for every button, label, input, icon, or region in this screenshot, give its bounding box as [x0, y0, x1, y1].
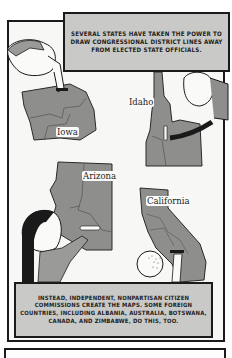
state-label-arizona: Arizona: [82, 171, 117, 181]
state-label-idaho: Idaho: [128, 97, 154, 107]
caption-text-top: Several states have taken the power to d…: [69, 30, 224, 54]
person-bottom-right: [137, 250, 184, 282]
caption-box-bottom: Instead, independent, nonpartisan citize…: [14, 282, 213, 338]
state-label-iowa: Iowa: [56, 127, 79, 137]
person-top-left: [8, 40, 68, 92]
caption-text-bottom: Instead, independent, nonpartisan citize…: [20, 295, 207, 326]
state-label-california: California: [146, 196, 191, 206]
caption-box-top: Several states have taken the power to d…: [63, 12, 230, 72]
